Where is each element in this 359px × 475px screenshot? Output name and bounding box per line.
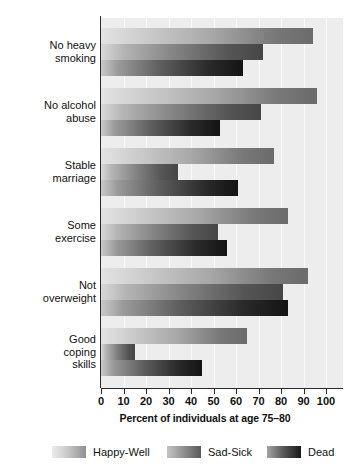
bar [101,224,218,240]
x-tick [101,389,102,394]
category-label: Stable marriage [18,159,96,184]
bar [101,360,202,376]
category-label: No alcohol abuse [18,99,96,124]
bar-group [101,148,343,196]
plot-area [101,18,343,388]
bar [101,28,313,44]
x-tick [169,389,170,394]
bar-group [101,328,343,376]
x-tick [304,389,305,394]
bar-group [101,268,343,316]
bar [101,240,227,256]
dead-swatch [267,446,301,458]
category-label: No heavy smoking [18,39,96,64]
y-axis-category-labels: No heavy smokingNo alcohol abuseStable m… [18,18,96,388]
bar [101,208,288,224]
bar [101,120,220,136]
bar [101,88,317,104]
category-label: Some exercise [18,219,96,244]
x-axis-title: Percent of individuals at age 75–80 [60,412,350,424]
bar [101,180,238,196]
y-axis-line [100,16,101,388]
legend-label: Dead [308,446,334,458]
bar [101,328,247,344]
legend-item[interactable]: Sad-Sick [167,444,252,460]
bar [101,344,135,360]
bar-group [101,28,343,76]
legend-label: Happy-Well [93,446,150,458]
bar [101,268,308,284]
legend-label: Sad-Sick [208,446,252,458]
legend-item[interactable]: Happy-Well [52,444,150,460]
bar [101,60,243,76]
happy-well-swatch [52,446,86,458]
bar-group [101,88,343,136]
sad-sick-swatch [167,446,201,458]
bar [101,164,178,180]
x-tick [124,389,125,394]
x-tick [191,389,192,394]
bar-group [101,208,343,256]
category-label: Not overweight [18,279,96,304]
bar [101,300,288,316]
x-tick [259,389,260,394]
x-tick-label: 100 [311,395,341,407]
bar [101,44,263,60]
category-label: Good coping skills [18,333,96,371]
bar [101,104,261,120]
bar [101,148,274,164]
bar [101,284,283,300]
legend-item[interactable]: Dead [267,444,334,460]
x-tick [214,389,215,394]
x-axis-line [101,388,343,389]
x-tick [146,389,147,394]
x-tick [281,389,282,394]
x-tick [236,389,237,394]
chart-legend: Happy-WellSad-SickDead [52,444,352,462]
x-tick [326,389,327,394]
